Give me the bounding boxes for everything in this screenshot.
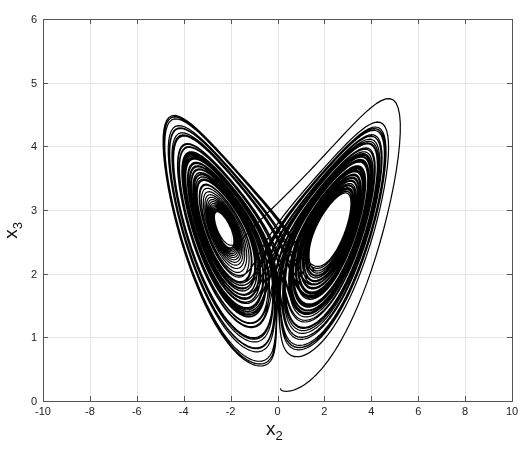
plot-area xyxy=(0,0,525,452)
x-tick-label: -4 xyxy=(179,406,189,417)
x-tick-label: 6 xyxy=(415,406,421,417)
x-tick-label: 8 xyxy=(462,406,468,417)
x-axis-label-subscript: 2 xyxy=(276,428,283,443)
x-axis-label: x2 xyxy=(266,418,283,443)
y-tick-label: 1 xyxy=(17,332,37,343)
x-tick-label: -10 xyxy=(35,406,51,417)
x-tick-label: 0 xyxy=(274,406,280,417)
x-tick-label: 2 xyxy=(321,406,327,417)
x-tick-label: -2 xyxy=(226,406,236,417)
y-tick-label: 0 xyxy=(17,396,37,407)
y-axis-label-main: x xyxy=(0,229,21,239)
y-axis-label: x3 xyxy=(0,222,25,239)
y-tick-label: 5 xyxy=(17,77,37,88)
chart-figure: -10-8-6-4-20246810 0123456 x2 x3 xyxy=(0,0,525,452)
x-tick-label: 4 xyxy=(368,406,374,417)
y-tick-label: 6 xyxy=(17,14,37,25)
y-tick-label: 4 xyxy=(17,141,37,152)
x-tick-label: 10 xyxy=(506,406,518,417)
x-tick-label: -6 xyxy=(132,406,142,417)
x-axis-label-main: x xyxy=(266,418,276,439)
x-tick-label: -8 xyxy=(85,406,95,417)
y-tick-label: 3 xyxy=(17,205,37,216)
y-tick-label: 2 xyxy=(17,268,37,279)
y-axis-label-subscript: 3 xyxy=(10,222,25,229)
